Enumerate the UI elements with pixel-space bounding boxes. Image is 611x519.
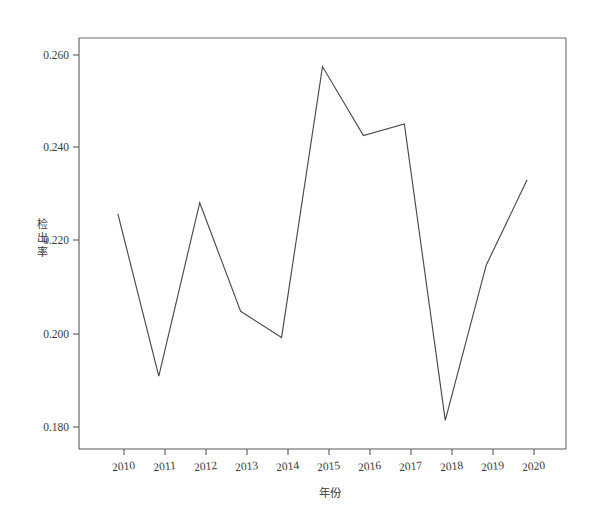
y-tick-label: 0.240 (43, 141, 69, 153)
x-tick-label: 2010 (112, 459, 136, 473)
chart-background (0, 0, 611, 519)
x-tick-label: 2016 (358, 459, 382, 473)
x-axis-title: 年份 (319, 486, 342, 500)
x-tick-label: 2011 (153, 459, 177, 473)
x-tick-label: 2012 (194, 459, 218, 473)
x-tick-label: 2019 (481, 459, 505, 473)
line-chart-svg: 0.260 0.240 0.220 0.200 0.180 检 出 率 (0, 0, 611, 519)
x-tick-label: 2020 (522, 459, 546, 473)
x-tick-label: 2014 (276, 459, 300, 473)
y-axis-title: 检 出 率 (37, 217, 48, 259)
y-tick-label: 0.260 (43, 49, 69, 61)
chart-figure: 0.260 0.240 0.220 0.200 0.180 检 出 率 (0, 0, 611, 519)
y-tick-label: 0.180 (43, 421, 69, 433)
x-tick-label: 2013 (235, 459, 259, 473)
x-tick-label: 2017 (399, 459, 423, 473)
y-axis-title-char: 出 (37, 231, 48, 245)
x-tick-label: 2015 (317, 459, 341, 473)
y-axis-title-char: 检 (37, 217, 48, 231)
x-tick-label: 2018 (440, 459, 464, 473)
y-tick-label: 0.200 (43, 328, 69, 340)
y-axis-title-char: 率 (37, 245, 48, 259)
